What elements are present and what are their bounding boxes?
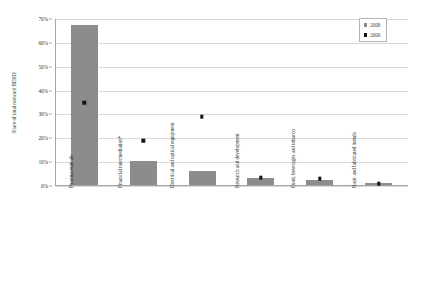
y-tick-label: 50%: [38, 64, 48, 70]
y-tick-label: 20%: [38, 135, 48, 141]
x-axis-label: Pharmaceuticals: [78, 188, 90, 288]
data-marker: [377, 182, 380, 185]
y-tick-mark: [49, 186, 52, 187]
x-axis-label-text: Research and development: [234, 133, 240, 188]
chart-container: Share of total outward BERD 0%10%20%30%4…: [0, 0, 428, 294]
x-axis-label-text: Pharmaceuticals: [68, 155, 74, 188]
y-tick-mark: [49, 114, 52, 115]
x-axis-label: Food, beverages and tobacco: [314, 188, 326, 288]
y-tick-label: 10%: [38, 159, 48, 165]
legend-label: 2000: [370, 32, 380, 38]
data-marker: [83, 101, 86, 104]
y-tick-label: 0%: [41, 183, 48, 189]
data-marker: [142, 139, 145, 142]
bar: [189, 171, 216, 185]
x-axis-label-text: Food, beverages and tobacco: [290, 129, 296, 188]
y-tick-mark: [49, 138, 52, 139]
x-axis-label: Research and development: [255, 188, 267, 288]
x-axis-label-text: Basic and fabricated metals: [351, 132, 357, 188]
y-tick-label: 40%: [38, 88, 48, 94]
data-marker: [318, 177, 321, 180]
chart-legend: 20082000: [359, 18, 387, 42]
x-axis-label-text: Electrical and optical equipment: [169, 123, 175, 188]
x-axis-label-text: Financial intermediation*: [117, 136, 123, 188]
bar: [306, 180, 333, 185]
y-tick-mark: [49, 90, 52, 91]
x-axis-label: Financial intermediation*: [137, 188, 149, 288]
y-tick-label: 70%: [38, 16, 48, 22]
x-axis-label: Electrical and optical equipment: [196, 188, 208, 288]
data-marker: [200, 115, 203, 118]
x-axis-label: Basic and fabricated metals: [373, 188, 385, 288]
y-axis-ticks: 0%10%20%30%40%50%60%70%: [0, 19, 52, 186]
y-tick-label: 60%: [38, 40, 48, 46]
y-tick-mark: [49, 42, 52, 43]
y-tick-mark: [49, 19, 52, 20]
legend-entry: 2000: [364, 32, 380, 38]
y-tick-mark: [49, 162, 52, 163]
bar: [130, 161, 157, 185]
legend-bar-swatch: [364, 23, 367, 26]
y-tick-mark: [49, 66, 52, 67]
bar: [71, 25, 98, 185]
y-tick-label: 30%: [38, 111, 48, 117]
legend-entry: 2008: [364, 22, 380, 28]
data-marker: [259, 176, 262, 179]
legend-label: 2008: [370, 22, 380, 28]
x-axis-category-labels: PharmaceuticalsFinancial intermediation*…: [55, 188, 408, 292]
legend-marker-swatch: [364, 33, 367, 36]
